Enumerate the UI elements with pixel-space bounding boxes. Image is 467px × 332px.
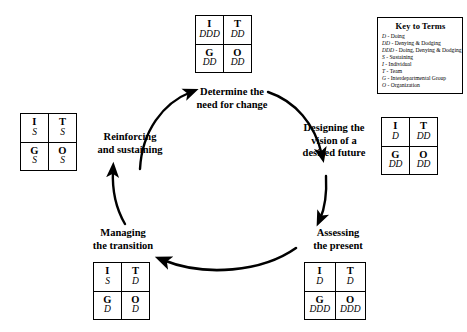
- arc-designing-to-assessing: [320, 176, 326, 219]
- legend-item: T - Team: [382, 68, 459, 75]
- matrix-cell: I S: [21, 114, 49, 142]
- legend-item: O - Organization: [382, 82, 459, 89]
- legend-item: I - Individual: [382, 61, 459, 68]
- legend-item: G - Interdepartmental Group: [382, 75, 459, 82]
- matrix-cell: G DDD: [305, 291, 335, 319]
- matrix-cell: O D: [122, 291, 150, 319]
- legend-symbol: DD: [382, 40, 390, 46]
- matrix-determine: I DDD T DD G DD O DD: [195, 15, 252, 73]
- stage-label-designing: Designing the vision of a desired future: [296, 122, 372, 160]
- cell-value: DD: [224, 58, 251, 68]
- matrix-assessing: I D T D G DDD O DDD: [304, 262, 366, 320]
- legend-text: Interdepartmental Group: [391, 75, 446, 81]
- legend-item: DD - Denying & Dodging: [382, 40, 459, 47]
- diagram-canvas: Determine the need for change Designing …: [0, 0, 467, 332]
- stage-line: Designing the: [296, 122, 372, 135]
- stage-line: need for change: [182, 99, 282, 112]
- matrix-cell: G D: [94, 291, 122, 319]
- legend-text: Individual: [389, 61, 412, 67]
- stage-line: Determine the: [182, 86, 282, 99]
- stage-line: and sustaining: [84, 144, 176, 157]
- cell-value: S: [49, 128, 76, 138]
- legend-symbol: DDD: [382, 47, 394, 53]
- stage-label-managing: Managing the transition: [80, 227, 166, 252]
- cell-value: S: [94, 277, 121, 287]
- stage-line: desired future: [296, 147, 372, 160]
- cell-value: DDD: [196, 30, 223, 40]
- cell-value: DD: [196, 58, 223, 68]
- matrix-cell: O DDD: [335, 291, 365, 319]
- key-to-terms-legend: Key to Terms D - Doing DD - Denying & Do…: [377, 17, 463, 94]
- legend-text: Doing, Denying & Dodging: [399, 47, 462, 53]
- matrix-cell: G DD: [382, 146, 410, 174]
- matrix-cell: I DDD: [196, 16, 224, 44]
- legend-item: S - Sustaining: [382, 54, 459, 61]
- matrix-reinforcing: I S T S G S O S: [20, 113, 77, 171]
- legend-item: D - Doing: [382, 33, 459, 40]
- matrix-cell: G DD: [196, 44, 224, 72]
- matrix-cell: G S: [21, 142, 49, 170]
- cell-value: D: [382, 132, 409, 142]
- arc-assessing-to-managing: [163, 248, 296, 270]
- cell-value: DD: [410, 160, 437, 170]
- cell-value: DDD: [305, 305, 335, 315]
- matrix-designing: I D T DD G DD O DD: [381, 117, 438, 175]
- stage-line: Reinforcing: [84, 131, 176, 144]
- legend-item: DDD - Doing, Denying & Dodging: [382, 47, 459, 54]
- matrix-cell: T DD: [224, 16, 252, 44]
- cell-value: DDD: [336, 305, 366, 315]
- cell-value: D: [122, 277, 149, 287]
- stage-label-determine: Determine the need for change: [182, 86, 282, 111]
- cell-value: D: [94, 305, 121, 315]
- matrix-cell: O DD: [224, 44, 252, 72]
- cell-value: S: [49, 156, 76, 166]
- cell-value: DD: [224, 30, 251, 40]
- stage-label-assessing: Assessing the present: [300, 227, 376, 252]
- matrix-cell: I S: [94, 263, 122, 291]
- stage-label-reinforcing: Reinforcing and sustaining: [84, 131, 176, 156]
- legend-text: Sustaining: [389, 54, 413, 60]
- legend-title: Key to Terms: [382, 21, 459, 31]
- stage-line: the present: [300, 240, 376, 253]
- arc-managing-to-reinforcing: [113, 170, 125, 224]
- legend-text: Denying & Dodging: [395, 40, 441, 46]
- matrix-cell: O S: [49, 142, 77, 170]
- cell-value: D: [305, 277, 335, 287]
- matrix-cell: T D: [122, 263, 150, 291]
- cell-value: D: [122, 305, 149, 315]
- cell-value: DD: [382, 160, 409, 170]
- stage-line: Assessing: [300, 227, 376, 240]
- matrix-managing: I S T D G D O D: [93, 262, 150, 320]
- matrix-cell: T D: [335, 263, 365, 291]
- matrix-cell: T S: [49, 114, 77, 142]
- matrix-cell: T DD: [410, 118, 438, 146]
- cell-value: S: [21, 128, 48, 138]
- matrix-cell: I D: [382, 118, 410, 146]
- stage-line: Managing: [80, 227, 166, 240]
- matrix-cell: I D: [305, 263, 335, 291]
- stage-line: the transition: [80, 240, 166, 253]
- legend-text: Organization: [391, 82, 420, 88]
- stage-line: vision of a: [296, 135, 372, 148]
- matrix-cell: O DD: [410, 146, 438, 174]
- cell-value: S: [21, 156, 48, 166]
- legend-text: Doing: [391, 33, 405, 39]
- legend-text: Team: [390, 68, 402, 74]
- cell-value: DD: [410, 132, 437, 142]
- cell-value: D: [336, 277, 366, 287]
